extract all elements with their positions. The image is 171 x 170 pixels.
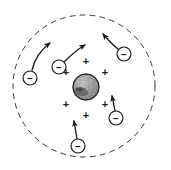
atom-diagram-canvas: ++++++ −−−−−	[0, 0, 171, 170]
positive-charge-symbol: +	[83, 55, 89, 67]
positive-charge-symbol: +	[63, 98, 69, 110]
negative-charge-symbol: −	[121, 49, 127, 60]
negative-charge-symbol: −	[56, 62, 62, 73]
positive-charge-symbol: +	[102, 98, 108, 110]
negative-charge-symbol: −	[113, 113, 119, 124]
negative-charge-symbol: −	[27, 73, 33, 84]
nucleus-core-dark-spot	[77, 88, 83, 93]
nucleus	[73, 74, 99, 100]
atom-diagram: ++++++ −−−−−	[0, 0, 171, 170]
positive-charge-symbol: +	[83, 109, 89, 121]
positive-charge-symbol: +	[102, 66, 108, 78]
negative-charge-symbol: −	[75, 141, 81, 152]
